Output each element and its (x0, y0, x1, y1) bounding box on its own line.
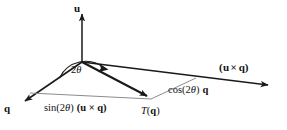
label-angle-2theta: 2θ (71, 65, 81, 76)
label-image-vector-tq: T(q) (141, 106, 160, 117)
label-cos-vector: q (199, 84, 208, 95)
label-tq-close-paren: ) (156, 105, 160, 116)
vector-tq-line (82, 62, 147, 96)
label-axis-u: u (74, 3, 80, 14)
label-axis-u-text: u (74, 2, 80, 14)
label-sin-component: sin(2θ)(u × q) (44, 103, 107, 114)
label-cos-component: cos(2θ)q (168, 85, 208, 96)
vector-diagram-figure: u q (u×q) 2θ sin(2θ)(u × q) T(q) cos(2θ)… (0, 0, 287, 130)
label-axis-q-text: q (4, 102, 10, 114)
label-axis-u-cross-q: (u×q) (219, 62, 248, 73)
label-sin-function: sin(2 (44, 102, 65, 113)
cross-product-icon: × (229, 61, 239, 73)
label-sin-vector: (u × q) (74, 102, 107, 113)
construction-line-sin-component (30, 93, 151, 99)
label-cos-function: cos(2 (168, 84, 191, 95)
label-axis-q: q (4, 103, 10, 114)
label-axis-u-cross-q-close: ) (245, 61, 249, 73)
label-angle-theta: θ (76, 64, 81, 75)
